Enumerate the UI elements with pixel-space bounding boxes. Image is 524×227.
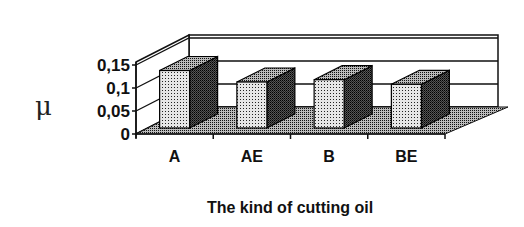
- bar-AE: [237, 68, 295, 128]
- bar-chart-3d: 00,050,10,15AAEBBE μ The kind of cutting…: [0, 0, 524, 227]
- x-axis-label: The kind of cutting oil: [207, 199, 373, 216]
- y-tick-label: 0: [121, 125, 130, 144]
- x-tick-label: B: [323, 148, 335, 165]
- bar-A: [160, 57, 218, 129]
- x-tick-label: BE: [395, 148, 418, 165]
- bar-B: [314, 66, 372, 128]
- x-tick-label: A: [169, 148, 181, 165]
- y-tick-label: 0,15: [97, 56, 130, 75]
- x-tick-label: AE: [241, 148, 264, 165]
- y-tick-label: 0,05: [97, 102, 130, 121]
- y-axis-label: μ: [35, 91, 52, 121]
- y-tick-label: 0,1: [106, 79, 130, 98]
